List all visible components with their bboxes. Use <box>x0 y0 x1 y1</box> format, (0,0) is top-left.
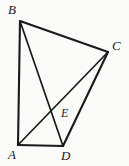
diagonal-BD <box>20 21 63 146</box>
vertex-label-c: C <box>112 39 121 52</box>
segment-group <box>18 21 108 146</box>
geometry-figure: B C E A D <box>0 0 129 166</box>
vertex-label-b: B <box>8 3 16 16</box>
vertex-label-e: E <box>61 107 68 120</box>
segment-BC <box>20 21 108 52</box>
geometry-canvas <box>0 0 129 166</box>
segment-AB <box>18 21 20 145</box>
vertex-label-d: D <box>61 149 70 162</box>
segment-CD <box>63 52 108 146</box>
segment-AD <box>18 145 63 146</box>
vertex-label-a: A <box>8 148 16 161</box>
diagonal-AC <box>18 52 108 145</box>
